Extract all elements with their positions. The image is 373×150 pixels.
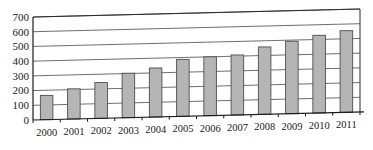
gridline (33, 38, 360, 46)
x-axis-tick-labels: 2000200120022003200420052006200720082009… (36, 119, 357, 137)
y-tick-label: 600 (13, 26, 30, 38)
gridline (33, 68, 360, 76)
plot-top-edge (33, 9, 360, 17)
bar (340, 31, 353, 113)
bar (40, 95, 53, 119)
bar (258, 47, 271, 114)
bar (204, 57, 217, 116)
bar (286, 41, 299, 113)
x-tick-label: 2007 (227, 122, 248, 133)
bar (149, 68, 162, 117)
y-tick-label: 100 (13, 99, 30, 111)
x-tick-label: 2004 (145, 124, 167, 135)
x-tick-label: 2001 (63, 126, 84, 137)
gridline (33, 83, 360, 91)
y-tick-label: 0 (24, 114, 30, 126)
x-axis-line (33, 112, 364, 120)
x-tick-label: 2002 (91, 125, 112, 136)
chart-canvas: 7006005004003002001000 20002001200220032… (0, 0, 373, 150)
bar (177, 59, 190, 116)
bar-chart: 7006005004003002001000 20002001200220032… (0, 0, 373, 150)
y-tick-label: 400 (13, 55, 30, 67)
x-tick-label: 2003 (118, 125, 139, 136)
x-tick-label: 2011 (336, 119, 357, 130)
y-axis-tick-labels: 7006005004003002001000 (13, 11, 30, 126)
bar (68, 89, 81, 119)
x-tick-label: 2010 (309, 120, 330, 131)
y-tick-label: 500 (13, 40, 30, 52)
x-tick-label: 2009 (281, 121, 302, 132)
x-tick-label: 2006 (200, 123, 221, 134)
bars-group (40, 31, 352, 120)
gridline (33, 97, 360, 105)
y-tick-label: 300 (13, 70, 30, 82)
y-tick-label: 200 (13, 84, 30, 96)
gridline (33, 53, 360, 61)
x-tick-label: 2005 (172, 123, 193, 134)
y-tick-label: 700 (13, 11, 30, 23)
bar (313, 35, 326, 113)
x-tick-label: 2008 (254, 121, 275, 132)
x-tick-label: 2000 (36, 127, 57, 138)
gridline (33, 24, 360, 32)
bar (231, 55, 244, 115)
gridlines-group (33, 9, 360, 105)
bar (122, 73, 135, 117)
bar (95, 83, 108, 119)
